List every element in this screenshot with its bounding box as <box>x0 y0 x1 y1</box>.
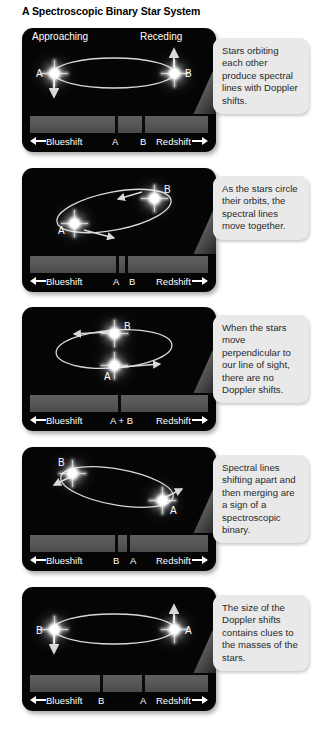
callout-2: As the stars circle their orbits, the sp… <box>213 176 309 240</box>
absorption-line-1 <box>100 675 103 692</box>
star-label-a: A <box>170 505 177 516</box>
spectrum <box>30 675 208 692</box>
star-a <box>170 625 179 634</box>
star-b <box>68 469 77 478</box>
star-b <box>110 329 119 338</box>
blueshift-arrow-icon <box>36 559 46 561</box>
tick-label-1: B <box>98 694 104 707</box>
tick-label-1: A + B <box>110 414 133 427</box>
spectrum-bar <box>30 535 208 552</box>
absorption-line-2 <box>142 675 145 692</box>
shift-axis: BlueshiftA + BRedshift <box>30 414 208 428</box>
panel-2: ABBlueshiftABRedshift <box>22 168 216 292</box>
tick-label-2: A <box>130 554 136 567</box>
redshift-arrow-icon <box>192 280 202 282</box>
absorption-line-2 <box>125 256 128 273</box>
blueshift-label: Blueshift <box>46 554 82 567</box>
redshift-label: Redshift <box>156 275 191 288</box>
blueshift-arrow-icon <box>36 699 46 701</box>
panel-4: BABlueshiftBARedshift <box>22 447 216 571</box>
orbit-ellipse <box>54 614 174 644</box>
shift-axis: BlueshiftBARedshift <box>30 694 208 708</box>
absorption-line-1 <box>115 535 118 552</box>
redshift-label: Redshift <box>156 414 191 427</box>
absorption-line-2 <box>127 535 130 552</box>
redshift-label: Redshift <box>156 694 191 707</box>
star-label-b: B <box>36 625 43 636</box>
orbit-ellipse <box>53 181 174 240</box>
spectrum <box>30 535 208 552</box>
star-label-a: A <box>58 225 65 236</box>
star-label-a: A <box>185 625 192 636</box>
blueshift-label: Blueshift <box>46 135 82 148</box>
page-title: A Spectroscopic Binary Star System <box>22 5 200 17</box>
orbit-diagram: BA <box>22 447 216 533</box>
blueshift-arrow-icon <box>36 419 46 421</box>
direction-label-1: Approaching <box>32 31 88 42</box>
shift-axis: BlueshiftBARedshift <box>30 554 208 568</box>
absorption-line-1 <box>118 395 121 412</box>
orbit-svg <box>22 447 216 533</box>
star-label-b: B <box>185 68 192 79</box>
absorption-line-2 <box>142 116 145 133</box>
star-b <box>170 69 179 78</box>
star-a <box>70 219 79 228</box>
panel-3: BABlueshiftA + BRedshift <box>22 307 216 431</box>
tick-label-1: A <box>113 275 119 288</box>
spectrum-bar <box>30 256 208 273</box>
blueshift-arrow-icon <box>36 280 46 282</box>
redshift-arrow-icon <box>192 699 202 701</box>
motion-arrow-2 <box>166 489 182 497</box>
star-a <box>110 361 119 370</box>
callout-4: Spectral lines shifting apart and then m… <box>213 455 309 543</box>
star-label-a: A <box>104 371 111 382</box>
blueshift-label: Blueshift <box>46 694 82 707</box>
tick-label-1: B <box>113 554 119 567</box>
orbit-svg <box>22 168 216 254</box>
orbit-diagram: BA <box>22 587 216 673</box>
star-a <box>158 496 167 505</box>
redshift-arrow-icon <box>192 140 202 142</box>
star-b <box>50 625 59 634</box>
spectrum <box>30 116 208 133</box>
redshift-label: Redshift <box>156 554 191 567</box>
blueshift-label: Blueshift <box>46 275 82 288</box>
panel-1: ApproachingRecedingABBlueshiftABRedshift <box>22 28 216 152</box>
tick-label-1: A <box>112 135 118 148</box>
tick-label-2: B <box>140 135 146 148</box>
orbit-ellipse <box>54 58 174 88</box>
star-label-a: A <box>36 68 43 79</box>
panel-row-4: BABlueshiftBARedshiftSpectral lines shif… <box>0 447 326 583</box>
star-a <box>50 69 59 78</box>
shift-axis: BlueshiftABRedshift <box>30 135 208 149</box>
star-label-b: B <box>124 321 131 332</box>
panel-row-5: BABlueshiftBARedshiftThe size of the Dop… <box>0 587 326 723</box>
redshift-arrow-icon <box>192 559 202 561</box>
orbit-diagram: BA <box>22 307 216 393</box>
shift-axis: BlueshiftABRedshift <box>30 275 208 289</box>
callout-5: The size of the Doppler shifts contains … <box>213 595 309 671</box>
orbit-diagram: AB <box>22 168 216 254</box>
spectrum-bar <box>30 675 208 692</box>
tick-label-2: A <box>140 694 146 707</box>
panel-row-1: ApproachingRecedingABBlueshiftABRedshift… <box>0 28 326 164</box>
blueshift-label: Blueshift <box>46 414 82 427</box>
absorption-line-1 <box>116 256 119 273</box>
spectrum <box>30 395 208 412</box>
star-b <box>150 194 159 203</box>
redshift-arrow-icon <box>192 419 202 421</box>
orbit-ellipse <box>58 459 177 514</box>
absorption-line-1 <box>115 116 118 133</box>
blueshift-arrow-icon <box>36 140 46 142</box>
direction-label-2: Receding <box>140 31 182 42</box>
star-label-b: B <box>164 184 171 195</box>
redshift-label: Redshift <box>156 135 191 148</box>
tick-label-2: B <box>129 275 135 288</box>
panel-row-3: BABlueshiftA + BRedshiftWhen the stars m… <box>0 307 326 443</box>
orbit-diagram: ApproachingRecedingAB <box>22 28 216 114</box>
callout-1: Stars orbiting each other produce spectr… <box>213 38 309 114</box>
motion-arrow-1 <box>118 192 142 199</box>
spectrum-bar <box>30 116 208 133</box>
panel-5: BABlueshiftBARedshift <box>22 587 216 711</box>
star-label-b: B <box>58 457 65 468</box>
